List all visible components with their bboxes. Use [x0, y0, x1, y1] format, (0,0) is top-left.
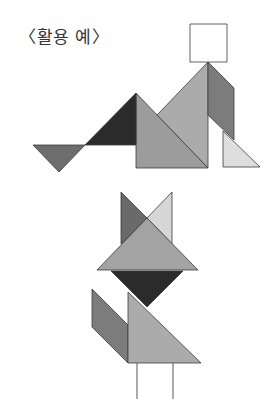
standing-fox-figure [92, 192, 201, 399]
dark-medium-triangle [85, 93, 136, 145]
arm-parallelogram [208, 62, 234, 140]
head-large-triangle [97, 218, 198, 270]
tangram-canvas [0, 0, 277, 399]
tail-parallelogram [92, 289, 128, 363]
body-large-triangle [128, 292, 201, 363]
neck-dark-triangle [111, 271, 183, 307]
foot-small-triangle [33, 145, 85, 172]
head-square [190, 24, 227, 62]
sitting-person-figure [33, 24, 260, 172]
leg-light-triangle [223, 131, 260, 167]
